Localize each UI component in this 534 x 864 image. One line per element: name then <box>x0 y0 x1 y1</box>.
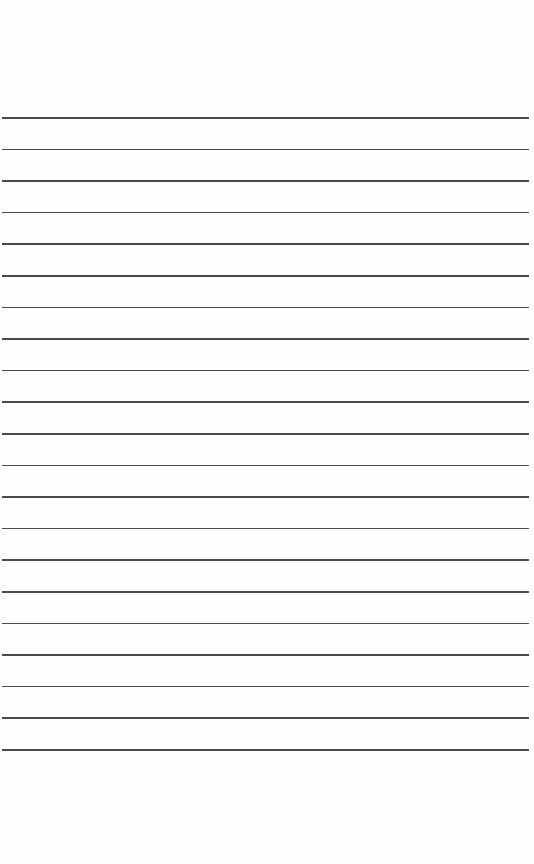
ruled-line <box>2 243 529 245</box>
ruled-line <box>2 275 529 277</box>
ruled-line <box>2 212 529 214</box>
ruled-line <box>2 433 529 435</box>
ruled-line <box>2 749 529 751</box>
ruled-line <box>2 117 529 119</box>
ruled-line <box>2 401 529 403</box>
ruled-line <box>2 338 529 340</box>
ruled-line <box>2 307 529 309</box>
ruled-line <box>2 559 529 561</box>
blank-header-area <box>0 0 534 100</box>
ruled-line <box>2 654 529 656</box>
ruled-line <box>2 591 529 593</box>
ruled-line <box>2 149 529 151</box>
ruled-line <box>2 623 529 625</box>
ruled-line <box>2 528 529 530</box>
ruled-line <box>2 496 529 498</box>
ruled-line <box>2 686 529 688</box>
ruled-line <box>2 180 529 182</box>
ruled-line <box>2 370 529 372</box>
ruled-line <box>2 717 529 719</box>
lined-paper-page <box>0 0 534 864</box>
ruled-line <box>2 465 529 467</box>
